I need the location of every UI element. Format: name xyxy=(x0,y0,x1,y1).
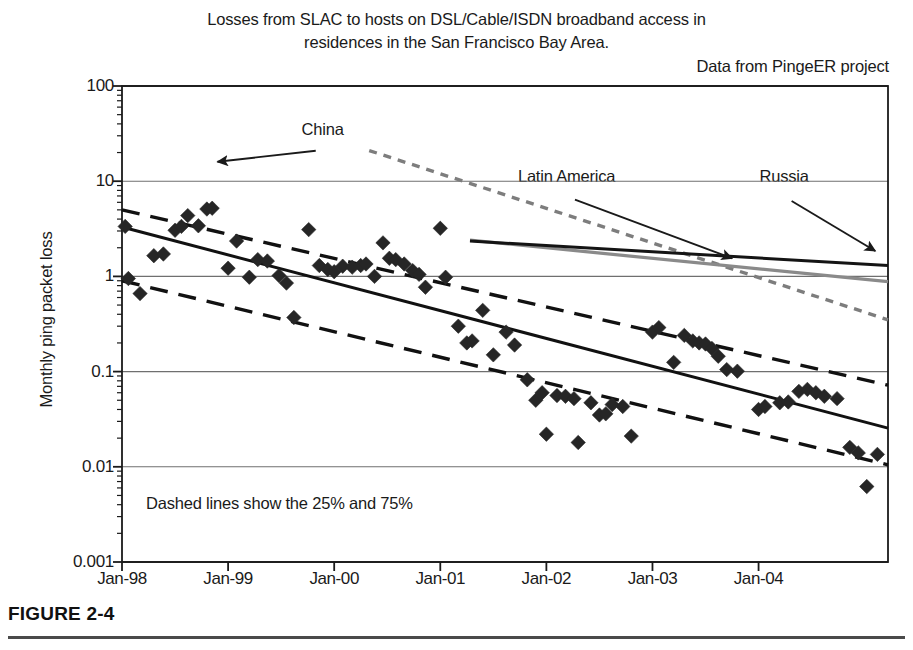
data-point-marker xyxy=(367,269,381,283)
data-point-marker xyxy=(418,280,432,294)
data-point-marker xyxy=(133,286,147,300)
data-point-marker xyxy=(507,338,521,352)
annotation-arrow-china xyxy=(217,151,315,162)
data-point-marker xyxy=(433,221,447,235)
data-point-marker xyxy=(624,429,638,443)
data-point-marker xyxy=(191,219,205,233)
data-point-marker xyxy=(242,270,256,284)
data-point-marker xyxy=(156,247,170,261)
trend-line-lower-quartile-trend xyxy=(122,281,888,465)
data-point-marker xyxy=(584,396,598,410)
data-point-marker xyxy=(520,373,534,387)
data-point-marker xyxy=(476,303,490,317)
plot-frame xyxy=(122,86,888,562)
trend-line-china xyxy=(369,151,888,320)
data-point-marker xyxy=(221,261,235,275)
data-point-marker xyxy=(730,364,744,378)
data-point-marker xyxy=(830,391,844,405)
annotation-arrow-russia xyxy=(792,201,876,251)
figure-container: Losses from SLAC to hosts on DSL/Cable/I… xyxy=(0,0,913,650)
data-point-marker xyxy=(451,319,465,333)
data-point-marker xyxy=(302,222,316,236)
plot-area xyxy=(0,0,913,650)
data-point-marker xyxy=(666,355,680,369)
figure-caption-rule xyxy=(8,636,905,639)
data-point-marker xyxy=(376,236,390,250)
data-point-marker xyxy=(486,348,500,362)
data-point-marker xyxy=(539,427,553,441)
data-point-marker xyxy=(571,435,585,449)
figure-caption: FIGURE 2-4 xyxy=(8,603,115,625)
data-point-marker xyxy=(860,479,874,493)
